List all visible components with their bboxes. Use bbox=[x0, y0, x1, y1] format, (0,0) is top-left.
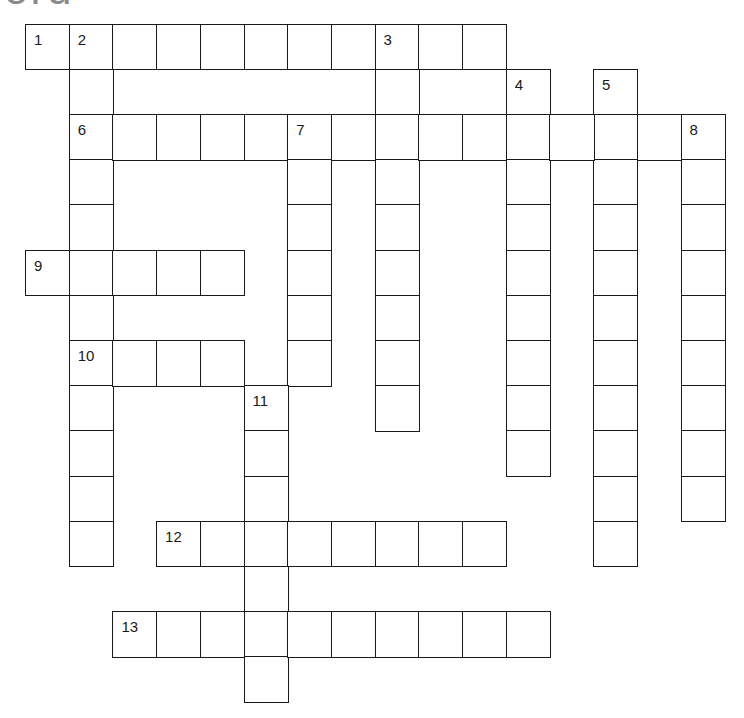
crossword-cell[interactable] bbox=[331, 114, 376, 161]
crossword-cell[interactable] bbox=[69, 250, 114, 297]
crossword-cell[interactable] bbox=[375, 250, 420, 297]
crossword-cell[interactable] bbox=[287, 340, 332, 387]
crossword-cell[interactable] bbox=[69, 204, 114, 251]
crossword-cell[interactable] bbox=[69, 476, 114, 523]
crossword-cell[interactable] bbox=[375, 114, 420, 161]
crossword-cell[interactable] bbox=[244, 24, 289, 71]
crossword-cell[interactable] bbox=[375, 295, 420, 342]
crossword-cell[interactable] bbox=[375, 611, 420, 658]
crossword-cell[interactable] bbox=[156, 611, 201, 658]
crossword-cell[interactable] bbox=[287, 295, 332, 342]
crossword-cell[interactable] bbox=[593, 476, 638, 523]
crossword-cell[interactable] bbox=[69, 159, 114, 206]
crossword-cell[interactable]: 2 bbox=[69, 24, 114, 71]
crossword-cell[interactable]: 7 bbox=[287, 114, 332, 161]
crossword-cell[interactable] bbox=[156, 24, 201, 71]
crossword-cell[interactable] bbox=[593, 430, 638, 477]
crossword-cell[interactable] bbox=[593, 159, 638, 206]
crossword-cell[interactable] bbox=[244, 476, 289, 523]
crossword-cell[interactable]: 8 bbox=[681, 114, 726, 161]
crossword-cell[interactable] bbox=[287, 204, 332, 251]
crossword-cell[interactable] bbox=[681, 295, 726, 342]
crossword-cell[interactable] bbox=[418, 24, 463, 71]
crossword-cell[interactable] bbox=[69, 521, 114, 568]
crossword-cell[interactable] bbox=[156, 340, 201, 387]
crossword-cell[interactable] bbox=[244, 656, 289, 703]
crossword-cell[interactable] bbox=[287, 24, 332, 71]
crossword-cell[interactable] bbox=[69, 295, 114, 342]
crossword-cell[interactable] bbox=[69, 430, 114, 477]
crossword-cell[interactable] bbox=[681, 430, 726, 477]
crossword-cell[interactable] bbox=[681, 385, 726, 432]
crossword-cell[interactable] bbox=[331, 611, 376, 658]
crossword-cell[interactable] bbox=[506, 430, 551, 477]
crossword-cell[interactable] bbox=[200, 521, 245, 568]
crossword-cell[interactable] bbox=[112, 114, 157, 161]
crossword-cell[interactable] bbox=[200, 250, 245, 297]
crossword-cell[interactable]: 10 bbox=[69, 340, 114, 387]
crossword-cell[interactable] bbox=[244, 114, 289, 161]
crossword-cell[interactable] bbox=[593, 521, 638, 568]
crossword-cell[interactable] bbox=[287, 250, 332, 297]
crossword-cell[interactable] bbox=[418, 521, 463, 568]
crossword-cell[interactable] bbox=[637, 114, 682, 161]
crossword-cell[interactable]: 11 bbox=[244, 385, 289, 432]
crossword-cell[interactable] bbox=[375, 385, 420, 432]
crossword-cell[interactable]: 9 bbox=[25, 250, 70, 297]
crossword-cell[interactable] bbox=[331, 521, 376, 568]
crossword-cell[interactable] bbox=[200, 611, 245, 658]
crossword-cell[interactable] bbox=[375, 69, 420, 116]
crossword-cell[interactable] bbox=[200, 340, 245, 387]
crossword-cell[interactable] bbox=[462, 611, 507, 658]
crossword-cell[interactable] bbox=[244, 430, 289, 477]
crossword-cell[interactable] bbox=[462, 24, 507, 71]
crossword-cell[interactable] bbox=[287, 611, 332, 658]
crossword-cell[interactable] bbox=[418, 611, 463, 658]
crossword-cell[interactable] bbox=[506, 385, 551, 432]
crossword-cell[interactable] bbox=[69, 69, 114, 116]
crossword-cell[interactable] bbox=[593, 385, 638, 432]
crossword-cell[interactable]: 12 bbox=[156, 521, 201, 568]
crossword-cell[interactable]: 4 bbox=[506, 69, 551, 116]
crossword-cell[interactable] bbox=[593, 250, 638, 297]
crossword-cell[interactable] bbox=[506, 204, 551, 251]
crossword-cell[interactable] bbox=[681, 476, 726, 523]
crossword-cell[interactable] bbox=[200, 114, 245, 161]
crossword-cell[interactable] bbox=[462, 521, 507, 568]
crossword-cell[interactable] bbox=[681, 340, 726, 387]
crossword-cell[interactable]: 6 bbox=[69, 114, 114, 161]
crossword-cell[interactable]: 3 bbox=[375, 24, 420, 71]
crossword-cell[interactable] bbox=[593, 204, 638, 251]
crossword-cell[interactable] bbox=[681, 159, 726, 206]
crossword-cell[interactable] bbox=[112, 24, 157, 71]
crossword-cell[interactable] bbox=[506, 611, 551, 658]
crossword-cell[interactable] bbox=[244, 521, 289, 568]
crossword-cell[interactable] bbox=[112, 340, 157, 387]
crossword-cell[interactable] bbox=[156, 250, 201, 297]
crossword-cell[interactable] bbox=[287, 159, 332, 206]
crossword-cell[interactable] bbox=[506, 159, 551, 206]
crossword-cell[interactable] bbox=[375, 159, 420, 206]
crossword-cell[interactable] bbox=[549, 114, 594, 161]
crossword-cell[interactable] bbox=[593, 114, 638, 161]
crossword-cell[interactable] bbox=[506, 114, 551, 161]
crossword-cell[interactable] bbox=[593, 340, 638, 387]
crossword-cell[interactable] bbox=[593, 295, 638, 342]
crossword-cell[interactable]: 13 bbox=[112, 611, 157, 658]
crossword-cell[interactable] bbox=[375, 521, 420, 568]
crossword-cell[interactable]: 5 bbox=[593, 69, 638, 116]
crossword-cell[interactable] bbox=[244, 566, 289, 613]
crossword-cell[interactable] bbox=[506, 295, 551, 342]
crossword-cell[interactable] bbox=[287, 521, 332, 568]
crossword-cell[interactable] bbox=[418, 114, 463, 161]
crossword-cell[interactable] bbox=[112, 250, 157, 297]
crossword-cell[interactable] bbox=[506, 340, 551, 387]
crossword-cell[interactable] bbox=[681, 250, 726, 297]
crossword-cell[interactable] bbox=[200, 24, 245, 71]
crossword-cell[interactable] bbox=[462, 114, 507, 161]
crossword-cell[interactable] bbox=[506, 250, 551, 297]
crossword-cell[interactable] bbox=[331, 24, 376, 71]
crossword-cell[interactable]: 1 bbox=[25, 24, 70, 71]
crossword-cell[interactable] bbox=[69, 385, 114, 432]
crossword-cell[interactable] bbox=[156, 114, 201, 161]
